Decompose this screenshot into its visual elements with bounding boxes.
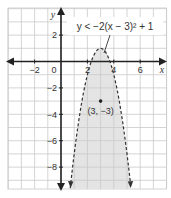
- y-axis-down-arrow-icon: [57, 183, 65, 191]
- y-tick-label: −6: [47, 136, 57, 146]
- x-tick-label: 6: [138, 65, 143, 75]
- x-axis-label: x: [159, 64, 165, 75]
- y-tick-label: −4: [47, 110, 57, 120]
- y-tick-label: −2: [47, 83, 57, 93]
- y-axis-label: y: [50, 9, 56, 20]
- y-tick-label: −8: [47, 162, 57, 172]
- x-axis-left-arrow-icon: [6, 58, 14, 66]
- test-point-marker: [99, 99, 103, 103]
- x-tick-label: 4: [111, 65, 116, 75]
- origin-label: 0: [51, 65, 56, 75]
- equation-leader-line: [104, 35, 110, 53]
- coordinate-graph: −2 0 2 4 6 x 2 −2 −4 −6 −8 y y < −2(x − …: [0, 0, 171, 198]
- y-tick-label: 2: [52, 30, 57, 40]
- x-tick-label: 2: [85, 65, 90, 75]
- grid-lines: [8, 8, 167, 189]
- x-tick-label: −2: [29, 65, 39, 75]
- test-point-label: (3, −3): [87, 106, 113, 116]
- equation-label: y < −2(x − 3)² + 1: [77, 21, 154, 32]
